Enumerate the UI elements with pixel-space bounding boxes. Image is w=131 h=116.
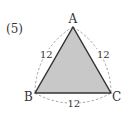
side-label-ab: 12 (40, 49, 53, 60)
problem-number: (5) (6, 22, 23, 36)
reuleaux-triangle-figure: (5) A B C 12 12 12 (0, 0, 131, 116)
vertex-label-a: A (68, 12, 78, 26)
vertex-label-c: C (112, 90, 121, 104)
triangle-abc (35, 27, 111, 93)
side-label-bc: 12 (68, 98, 81, 109)
side-label-ac: 12 (97, 49, 110, 60)
vertex-label-b: B (24, 90, 33, 104)
